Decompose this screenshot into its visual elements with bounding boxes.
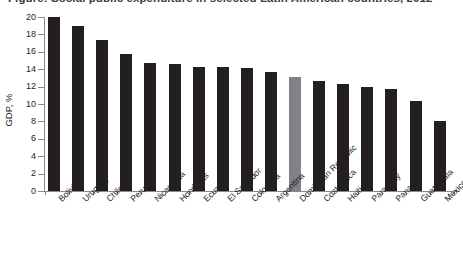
y-tick-label: 18 xyxy=(18,30,36,39)
x-label-anchor: El Salvador xyxy=(225,196,226,197)
y-tick-label: 16 xyxy=(18,47,36,56)
x-label-anchor: Ecuador xyxy=(201,196,202,197)
bar xyxy=(96,40,108,191)
x-label-anchor: Guatemala xyxy=(418,196,419,197)
x-tick-label: Panama xyxy=(394,196,402,204)
x-tick-label: Honduras xyxy=(177,196,185,204)
y-tick-label: 6 xyxy=(18,134,36,143)
y-tick-label: 20 xyxy=(18,13,36,22)
x-tick-label: El Salvador xyxy=(225,196,233,204)
x-tick-label: Mexico xyxy=(442,196,450,204)
y-tick-label: 2 xyxy=(18,169,36,178)
bar xyxy=(72,26,84,191)
x-label-anchor: Colombia xyxy=(249,196,250,197)
x-tick-label: Paraguay xyxy=(370,196,378,204)
x-tick-label: Dominican Republic xyxy=(297,196,305,204)
bar xyxy=(144,63,156,191)
bar xyxy=(48,17,60,191)
x-label-anchor: Haiti xyxy=(345,196,346,197)
y-tick-mark xyxy=(38,191,44,192)
x-label-anchor: Dominican Republic xyxy=(297,196,298,197)
y-tick-label: 10 xyxy=(18,100,36,109)
y-tick-label: 12 xyxy=(18,82,36,91)
x-tick-label: Chile xyxy=(104,196,112,204)
x-tick-label: Ecuador xyxy=(201,196,209,204)
y-axis-label: GDP, % xyxy=(2,80,14,140)
x-label-anchor: Panama xyxy=(393,196,394,197)
y-tick-label: 8 xyxy=(18,117,36,126)
x-label-anchor: Peru xyxy=(128,196,129,197)
x-tick-label: Bolivia xyxy=(56,196,64,204)
x-tick-label: Uruguay xyxy=(80,196,88,204)
x-tick-label: Costa Rica xyxy=(321,196,329,204)
x-tick-label: Haiti xyxy=(345,196,353,204)
x-label-anchor: Mexico xyxy=(442,196,443,197)
x-tick-label: Guatemala xyxy=(418,196,426,204)
x-tick-mark xyxy=(45,191,46,195)
y-tick-label: 14 xyxy=(18,65,36,74)
figure-bar-chart: Figure: Social public expenditure in sel… xyxy=(0,0,463,275)
y-tick-label: 0 xyxy=(18,187,36,196)
x-tick-label: Nicaragua xyxy=(153,196,161,204)
bar xyxy=(217,67,229,191)
figure-title: Figure: Social public expenditure in sel… xyxy=(8,0,433,4)
figure-title-strip: Figure: Social public expenditure in sel… xyxy=(0,0,463,9)
y-tick-label: 4 xyxy=(18,152,36,161)
x-label-anchor: Costa Rica xyxy=(321,196,322,197)
bar xyxy=(361,87,373,191)
x-tick-label: Colombia xyxy=(249,196,257,204)
x-label-anchor: Uruguay xyxy=(80,196,81,197)
x-label-anchor: Bolivia xyxy=(56,196,57,197)
x-label-anchor: Argentina xyxy=(273,196,274,197)
x-tick-label: Argentina xyxy=(273,196,281,204)
bar xyxy=(120,54,132,191)
x-label-anchor: Chile xyxy=(104,196,105,197)
x-label-anchor: Paraguay xyxy=(369,196,370,197)
x-tick-label: Peru xyxy=(129,196,137,204)
bars-container xyxy=(44,17,460,191)
x-label-anchor: Honduras xyxy=(177,196,178,197)
x-label-anchor: Nicaragua xyxy=(152,196,153,197)
